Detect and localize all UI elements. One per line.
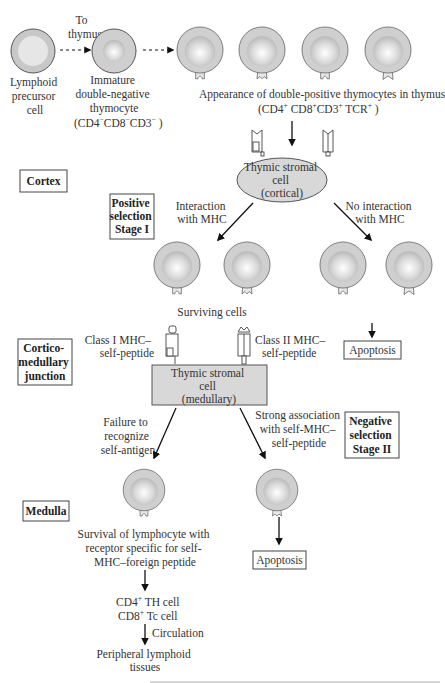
lymphoid-precursor-cell xyxy=(11,29,55,73)
immature-thymocyte-label: Immature double-negative thymocyte xyxy=(76,74,153,115)
non-interacting-cell-1 xyxy=(320,242,366,294)
survival-of-lymphocyte-label: Survival of lymphocyte with receptor spe… xyxy=(78,528,213,569)
strong-association-label: Strong association with self-MHC– self-p… xyxy=(255,409,343,450)
double-positive-markers: (CD4+ CD8+CD3+ TCR+ ) xyxy=(258,101,379,116)
negative-selection-stage-box: Negative selection Stage II xyxy=(345,412,399,458)
svg-text:Apoptosis: Apoptosis xyxy=(256,554,303,567)
circulation-label: Circulation xyxy=(152,627,204,639)
double-positive-cell-4 xyxy=(365,27,411,80)
medullary-stromal-cell: Thymic stromal cell (medullary) xyxy=(152,365,267,406)
svg-text:Medulla: Medulla xyxy=(26,505,67,517)
tc-cell-label: CD8+ Tc cell xyxy=(118,608,177,622)
svg-text:Positive selection: Positive selection Stage I xyxy=(109,197,154,236)
th-cell-label: CD4+ TH cell xyxy=(116,594,179,608)
non-interacting-cell-2 xyxy=(386,242,432,295)
lymphoid-precursor-label: Lymphoid precursor cell xyxy=(10,76,60,116)
double-positive-cell-1 xyxy=(177,27,223,79)
class1-mhc-receptor-medullary xyxy=(166,326,178,364)
failure-to-recognize-label: Failure to recognize self-antigen xyxy=(101,416,156,457)
apoptosis-box-1: Apoptosis xyxy=(344,341,401,359)
svg-text:Cortico- medullary: Cortico- medullary junction xyxy=(18,342,71,383)
peripheral-lymphoid-tissues-label: Peripheral lymphoid tissues xyxy=(96,648,193,673)
cortex-zone-box: Cortex xyxy=(20,170,67,192)
double-positive-cell-2 xyxy=(239,27,285,79)
mhc-class2-receptor-cortical xyxy=(323,130,333,156)
interaction-with-mhc-label: Interaction with MHC xyxy=(176,200,229,225)
surviving-cells-label: Surviving cells xyxy=(177,306,247,319)
double-positive-label: Appearance of double-positive thymocytes… xyxy=(199,88,445,101)
cortical-stromal-cell: Thymic stromal cell (cortical) xyxy=(237,158,327,202)
svg-text:Cortex: Cortex xyxy=(27,175,61,187)
medulla-zone-box: Medulla xyxy=(23,501,69,521)
thymic-selection-diagram: Lymphoid precursor cell To thymus Immatu… xyxy=(0,0,445,683)
no-interaction-with-mhc-label: No interaction with MHC xyxy=(346,200,415,225)
immature-thymocyte-cell xyxy=(92,29,136,73)
immature-markers: (CD4−CD8−CD3− ) xyxy=(74,115,163,130)
surviving-medullary-cell xyxy=(123,469,165,516)
apoptosis-box-2: Apoptosis xyxy=(253,551,306,569)
surviving-cell-2 xyxy=(224,242,270,294)
corticomedullary-zone-box: Cortico- medullary junction xyxy=(18,339,72,385)
arrow-failure-to-recognize xyxy=(154,408,176,458)
class2-mhc-receptor-medullary xyxy=(238,327,250,364)
double-positive-cell-3 xyxy=(302,27,348,79)
class2-mhc-label: Class II MHC– self-peptide xyxy=(255,334,328,360)
class1-mhc-label: Class I MHC– self-peptide xyxy=(85,334,154,360)
mhc-class1-receptor-cortical xyxy=(252,130,264,156)
svg-text:Apoptosis: Apoptosis xyxy=(349,344,396,357)
surviving-cell-1 xyxy=(154,242,200,294)
positive-selection-stage-box: Positive selection Stage I xyxy=(109,194,154,239)
svg-text:Negative selection: Negative selection Stage II xyxy=(349,415,395,456)
self-reactive-medullary-cell xyxy=(256,469,298,516)
